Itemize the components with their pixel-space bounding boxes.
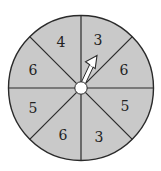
section-label-left-lower: 5 <box>29 100 38 116</box>
section-label-right-upper: 6 <box>120 62 129 78</box>
spinner-diagram: 4 3 6 5 3 6 5 6 <box>0 0 161 171</box>
section-label-top-right: 3 <box>94 32 103 48</box>
section-label-top-left: 4 <box>57 34 66 50</box>
section-label-bottom-right: 3 <box>95 129 104 145</box>
section-label-right-lower: 5 <box>121 98 130 114</box>
section-label-left-upper: 6 <box>29 62 38 78</box>
spinner-hub <box>75 82 87 94</box>
section-label-bottom-left: 6 <box>59 127 68 143</box>
